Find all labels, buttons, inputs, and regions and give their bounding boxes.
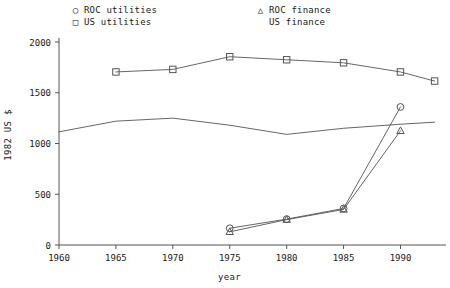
legend-entry-us-utilities: □US utilities (70, 17, 151, 28)
series-line-roc-utilities (230, 107, 401, 228)
x-tick-label: 1985 (333, 253, 355, 263)
y-tick-label: 0 (46, 241, 51, 251)
legend-label-roc-utilities: ROC utilities (81, 5, 157, 16)
y-tick-label: 500 (35, 190, 51, 200)
x-tick-label: 1965 (105, 253, 127, 263)
legend-label-us-finance: US finance (266, 17, 325, 28)
series-line-us-finance (59, 118, 435, 134)
x-tick-label: 1975 (219, 253, 241, 263)
series-line-us-utilities (116, 57, 435, 81)
x-tick-label: 1960 (48, 253, 70, 263)
legend-label-us-utilities: US utilities (81, 17, 151, 28)
y-axis-label: 1982 US $ (3, 105, 13, 165)
triangle-marker-icon: △ (255, 5, 266, 16)
legend-label-roc-finance: ROC finance (266, 5, 331, 16)
x-tick-label: 1990 (390, 253, 412, 263)
triangle-marker-icon (397, 127, 404, 134)
legend-entry-roc-utilities: ○ROC utilities (70, 5, 157, 16)
x-tick-label: 1980 (276, 253, 298, 263)
y-tick-label: 1000 (29, 139, 51, 149)
legend-entry-roc-finance: △ROC finance (255, 5, 331, 16)
y-tick-label: 2000 (29, 38, 51, 48)
y-tick-label: 1500 (29, 88, 51, 98)
plot-area: 0500100015002000196019651970197519801985… (0, 0, 450, 288)
series-line-roc-finance (230, 131, 401, 232)
chart-figure: ○ROC utilities □US utilities △ROC financ… (0, 0, 450, 288)
square-marker-icon: □ (70, 17, 81, 28)
x-axis-label: year (218, 272, 241, 282)
circle-marker-icon: ○ (70, 5, 81, 16)
x-tick-label: 1970 (162, 253, 184, 263)
legend-entry-us-finance: US finance (255, 17, 325, 28)
